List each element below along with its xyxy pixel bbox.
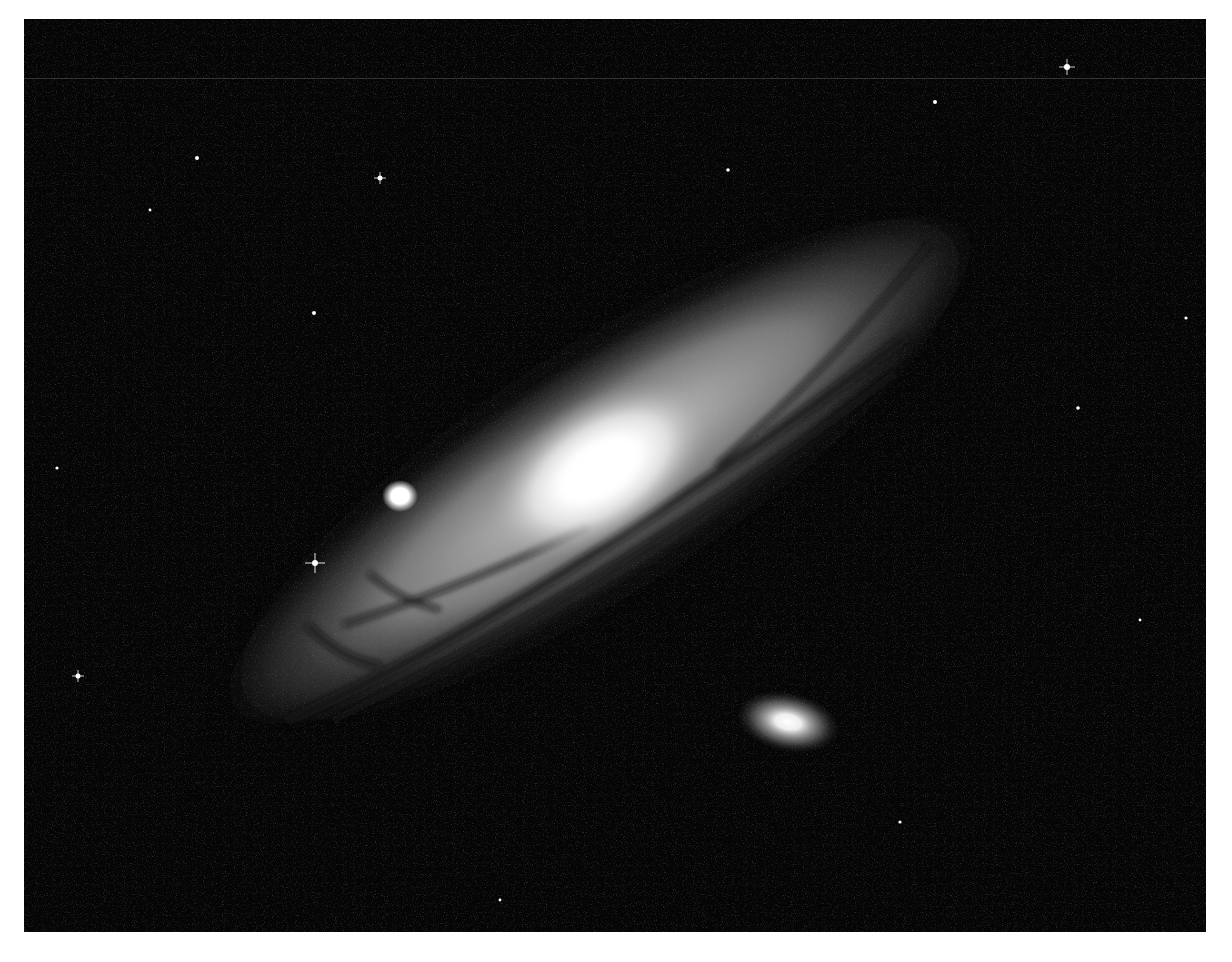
star	[933, 100, 937, 104]
galaxy-svg	[24, 19, 1206, 932]
star	[499, 899, 502, 902]
star	[149, 209, 152, 212]
star	[1076, 406, 1080, 410]
star	[312, 311, 316, 315]
star	[898, 820, 901, 823]
star	[55, 466, 58, 469]
star	[195, 156, 199, 160]
star	[726, 168, 730, 172]
star	[1139, 619, 1142, 622]
compact-satellite-galaxy	[382, 480, 418, 512]
star	[1184, 316, 1187, 319]
scan-line-artifact	[24, 78, 1206, 79]
galaxy-photograph	[24, 19, 1206, 932]
